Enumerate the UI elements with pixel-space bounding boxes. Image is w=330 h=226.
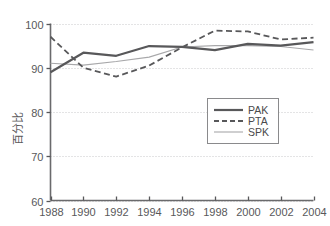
legend-label-spk: SPK xyxy=(248,126,269,138)
x-tick-label-2000: 2000 xyxy=(236,206,260,218)
y-tick-label-70: 70 xyxy=(31,151,43,163)
x-tick-label-2004: 2004 xyxy=(302,206,326,218)
x-tick-label-1992: 1992 xyxy=(104,206,128,218)
chart-legend: PAKPTASPK xyxy=(208,99,279,144)
y-axis-title: 百分比 xyxy=(12,112,24,145)
x-tick-label-1988: 1988 xyxy=(39,206,63,218)
line-chart: 60708090100 1988199019921994199619982000… xyxy=(0,0,330,226)
x-tick-label-1994: 1994 xyxy=(137,206,161,218)
x-tick-label-1990: 1990 xyxy=(71,206,95,218)
y-tick-label-100: 100 xyxy=(25,19,43,31)
chart-canvas: 60708090100 1988199019921994199619982000… xyxy=(0,0,330,226)
y-tick-label-80: 80 xyxy=(31,107,43,119)
x-tick-label-1996: 1996 xyxy=(170,206,194,218)
x-axis-tick-labels: 198819901992199419961998200020022004 xyxy=(39,206,326,218)
x-tick-label-2002: 2002 xyxy=(269,206,293,218)
x-tick-label-1998: 1998 xyxy=(203,206,227,218)
y-tick-label-90: 90 xyxy=(31,63,43,75)
